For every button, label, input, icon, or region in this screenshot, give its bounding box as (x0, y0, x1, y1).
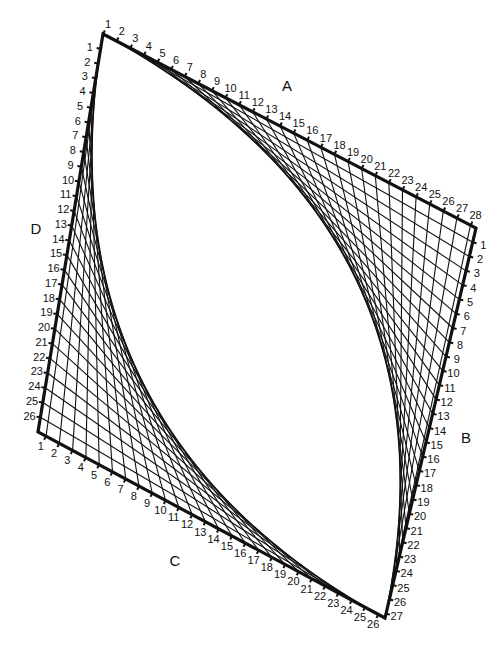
peg-label-c-26: 26 (367, 618, 379, 630)
peg-tick (56, 299, 60, 300)
peg-label-a-17: 17 (320, 132, 332, 144)
peg-tick (386, 614, 390, 615)
peg-label-a-23: 23 (401, 174, 413, 186)
peg-label-c-14: 14 (207, 533, 219, 545)
peg-label-b-11: 11 (444, 382, 455, 394)
peg-label-c-5: 5 (91, 469, 97, 481)
string-line (171, 69, 456, 313)
string-line (307, 140, 423, 456)
peg-label-a-2: 2 (119, 25, 125, 37)
peg-label-b-17: 17 (424, 467, 436, 479)
peg-tick (87, 107, 91, 108)
peg-tick (44, 372, 48, 373)
peg-label-b-8: 8 (457, 339, 463, 351)
peg-tick (53, 313, 57, 314)
peg-tick (413, 499, 417, 500)
peg-tick (463, 285, 467, 286)
peg-label-b-5: 5 (467, 296, 473, 308)
peg-tick (68, 225, 72, 226)
peg-tick (466, 271, 470, 272)
peg-label-a-27: 27 (456, 202, 468, 214)
peg-tick (433, 414, 437, 415)
peg-tick (403, 542, 407, 543)
peg-label-a-8: 8 (200, 68, 206, 80)
peg-tick (61, 269, 65, 270)
peg-tick (429, 428, 433, 429)
peg-label-c-24: 24 (340, 604, 352, 616)
peg-label-d-22: 22 (33, 351, 45, 363)
string-line (212, 91, 446, 357)
peg-tick (459, 299, 463, 300)
peg-label-b-12: 12 (441, 396, 453, 408)
peg-label-d-25: 25 (26, 395, 38, 407)
peg-label-a-24: 24 (415, 181, 427, 193)
side-label-d: D (31, 220, 42, 237)
peg-label-c-15: 15 (221, 540, 233, 552)
peg-label-c-17: 17 (247, 554, 259, 566)
peg-label-a-12: 12 (252, 96, 264, 108)
peg-label-c-25: 25 (354, 611, 366, 623)
peg-tick (393, 585, 397, 586)
peg-tick (456, 314, 460, 315)
peg-label-c-4: 4 (78, 461, 84, 473)
peg-label-c-21: 21 (301, 583, 313, 595)
peg-tick (399, 557, 403, 558)
peg-tick (58, 284, 62, 285)
peg-label-a-11: 11 (238, 89, 249, 101)
peg-tick (36, 417, 40, 418)
peg-label-b-26: 26 (394, 596, 406, 608)
peg-tick (416, 485, 420, 486)
peg-label-c-2: 2 (51, 447, 57, 459)
peg-label-b-2: 2 (477, 253, 483, 265)
peg-label-d-24: 24 (28, 380, 40, 392)
peg-tick (65, 240, 69, 241)
string-lines (40, 34, 472, 618)
peg-label-c-8: 8 (131, 490, 137, 502)
peg-tick (82, 137, 86, 138)
peg-label-d-5: 5 (77, 100, 83, 112)
peg-label-b-9: 9 (454, 353, 460, 365)
peg-label-c-6: 6 (104, 476, 110, 488)
peg-tick (73, 196, 77, 197)
peg-tick (51, 328, 55, 329)
peg-label-a-20: 20 (361, 153, 373, 165)
peg-label-b-10: 10 (447, 367, 459, 379)
peg-label-b-13: 13 (437, 410, 449, 422)
peg-tick (439, 385, 443, 386)
peg-label-d-21: 21 (35, 336, 47, 348)
peg-label-c-18: 18 (261, 561, 273, 573)
peg-label-d-10: 10 (62, 174, 74, 186)
peg-tick (426, 442, 430, 443)
peg-tick (92, 78, 96, 79)
peg-label-b-24: 24 (401, 567, 413, 579)
peg-tick (89, 92, 93, 93)
peg-label-b-1: 1 (480, 239, 486, 251)
peg-label-d-1: 1 (87, 41, 93, 53)
peg-label-a-14: 14 (279, 110, 291, 122)
peg-label-d-3: 3 (82, 70, 88, 82)
peg-tick (80, 151, 84, 152)
diagram-canvas: 1234567891011121314151617181920212223242… (0, 0, 501, 645)
peg-label-a-22: 22 (388, 167, 400, 179)
peg-label-c-10: 10 (154, 504, 166, 516)
peg-label-b-18: 18 (421, 482, 433, 494)
peg-tick (77, 166, 81, 167)
peg-tick (419, 471, 423, 472)
peg-label-c-22: 22 (314, 590, 326, 602)
peg-tick (389, 599, 393, 600)
peg-label-d-12: 12 (57, 203, 69, 215)
peg-label-c-23: 23 (327, 597, 339, 609)
side-label-b: B (461, 429, 471, 446)
peg-label-c-13: 13 (194, 526, 206, 538)
peg-tick (75, 181, 79, 182)
peg-label-a-13: 13 (265, 103, 277, 115)
side-label-c: C (170, 552, 181, 569)
peg-label-c-19: 19 (274, 568, 286, 580)
peg-label-b-27: 27 (391, 610, 403, 622)
peg-label-b-16: 16 (427, 453, 439, 465)
peg-label-b-25: 25 (397, 582, 409, 594)
peg-label-a-18: 18 (333, 139, 345, 151)
peg-tick (423, 457, 427, 458)
peg-label-b-15: 15 (431, 439, 443, 451)
string-line (158, 62, 460, 299)
